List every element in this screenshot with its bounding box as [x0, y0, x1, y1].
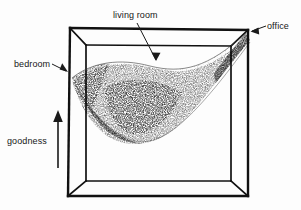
- label-office: office: [267, 22, 289, 31]
- label-living-room: living room: [113, 11, 158, 20]
- figure-canvas: [0, 0, 301, 210]
- bedroom-leader: [52, 63, 68, 72]
- office-leader: [251, 26, 267, 34]
- label-bedroom: bedroom: [14, 60, 50, 69]
- goodness-axis-arrow: [53, 110, 63, 168]
- goodness-landscape-figure: living room office bedroom goodness: [0, 0, 301, 210]
- label-goodness-axis: goodness: [7, 137, 47, 146]
